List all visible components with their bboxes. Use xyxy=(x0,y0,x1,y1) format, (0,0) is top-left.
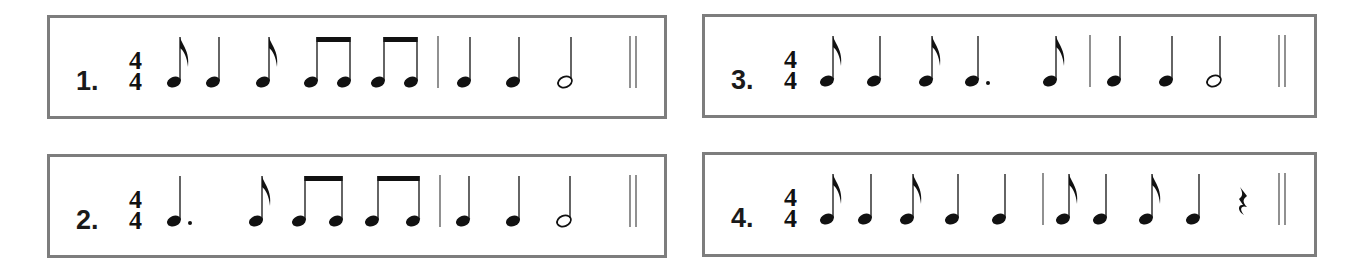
beamed-eighth-notes-icon xyxy=(290,176,344,229)
beamed-eighth-notes-icon xyxy=(369,37,419,90)
eighth-note-icon xyxy=(165,37,188,90)
double-barline xyxy=(1279,173,1285,225)
notation-canvas: 1.44 xyxy=(50,18,664,116)
eighth-note-icon xyxy=(818,174,841,227)
quarter-note-icon xyxy=(454,176,471,229)
quarter-note-icon xyxy=(504,37,521,90)
quarter-note-icon xyxy=(1091,174,1108,227)
quarter-note-icon xyxy=(865,36,882,89)
rhythm-exercise-1: 1.44 xyxy=(47,15,667,119)
eighth-note-icon xyxy=(818,36,841,89)
svg-text:4: 4 xyxy=(129,206,142,235)
beamed-eighth-notes-icon xyxy=(363,176,421,229)
quarter-note-icon xyxy=(1105,36,1122,89)
exercise-number: 4. xyxy=(731,203,754,233)
quarter-note-icon xyxy=(1184,174,1201,227)
notation-canvas: 3.44 xyxy=(705,17,1314,115)
rhythm-exercise-3: 3.44 xyxy=(702,14,1317,118)
time-signature: 44 xyxy=(129,185,142,235)
svg-text:4: 4 xyxy=(784,204,797,233)
half-note-icon xyxy=(556,37,573,90)
eighth-note-icon xyxy=(917,36,940,89)
eighth-note-icon xyxy=(247,176,270,229)
exercise-number: 2. xyxy=(76,205,99,235)
dotted-quarter-note-icon xyxy=(963,36,990,89)
quarter-note-icon xyxy=(455,37,472,90)
quarter-rest-icon xyxy=(1239,187,1247,215)
exercise-number: 1. xyxy=(76,66,99,96)
svg-text:4: 4 xyxy=(129,67,142,96)
quarter-note-icon xyxy=(856,174,873,227)
double-barline xyxy=(1279,35,1285,87)
time-signature: 44 xyxy=(784,183,797,233)
svg-text:4: 4 xyxy=(784,66,797,95)
eighth-note-icon xyxy=(1137,174,1160,227)
eighth-note-icon xyxy=(254,37,277,90)
beamed-eighth-notes-icon xyxy=(302,37,352,90)
rhythm-exercise-2: 2.44 xyxy=(47,154,667,258)
quarter-note-icon xyxy=(943,174,960,227)
time-signature: 44 xyxy=(129,46,142,96)
half-note-icon xyxy=(555,176,572,229)
double-barline xyxy=(630,36,636,88)
eighth-note-icon xyxy=(1041,36,1064,89)
notation-canvas: 2.44 xyxy=(50,157,664,255)
quarter-note-icon xyxy=(990,174,1007,227)
double-barline xyxy=(630,175,636,227)
time-signature: 44 xyxy=(784,45,797,95)
quarter-note-icon xyxy=(1157,36,1174,89)
quarter-note-icon xyxy=(204,37,221,90)
half-note-icon xyxy=(1205,36,1222,89)
quarter-note-icon xyxy=(504,176,521,229)
eighth-note-icon xyxy=(1054,174,1077,227)
dotted-quarter-note-icon xyxy=(165,176,192,229)
notation-canvas: 4.44 xyxy=(705,155,1314,254)
rhythm-exercise-4: 4.44 xyxy=(702,152,1317,257)
eighth-note-icon xyxy=(898,174,921,227)
exercise-number: 3. xyxy=(731,65,754,95)
